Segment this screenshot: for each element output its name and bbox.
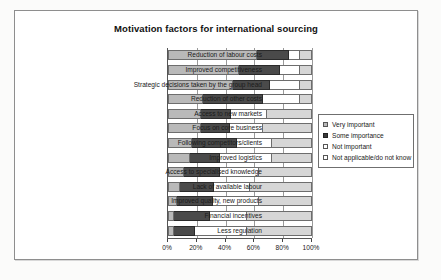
axis-tick [282, 239, 283, 242]
category-label: Access to specialised knowledge [166, 167, 265, 177]
axis-tick-label: 20% [183, 244, 209, 251]
category-label: Reduction of other costs [191, 94, 265, 104]
category-label: Less regulation [217, 226, 265, 236]
screenshot-root: Motivation factors for international sou… [0, 0, 441, 280]
axis-tick-label: 80% [269, 244, 295, 251]
axis-tick-label: 100% [298, 244, 324, 251]
bar-segment [300, 94, 312, 104]
category-label: Improved logistics [209, 153, 265, 163]
category-label: Financial incentives [204, 211, 265, 221]
legend-label-very-important: Very important [332, 121, 375, 128]
axis-tick-label: 0% [154, 244, 180, 251]
category-label: Focus on core business [192, 123, 265, 133]
bar-segment [168, 182, 180, 192]
axis-tick [225, 239, 226, 242]
gridline [312, 48, 313, 238]
axis-tick [167, 239, 168, 242]
legend-swatch-icon-not-applicable [323, 155, 328, 160]
bar-segment [300, 65, 312, 75]
axis-tick-label: 40% [212, 244, 238, 251]
bar-segment [272, 153, 312, 163]
category-label: Lack of available labour [193, 182, 265, 192]
legend-swatch-icon-not-important [323, 144, 328, 149]
category-label: Following competitors/clients [178, 138, 265, 148]
legend-item-very-important: Very important [323, 119, 410, 130]
legend-item-some-importance: Some importance [323, 130, 410, 141]
bar-segment [289, 50, 301, 60]
axis-tick [311, 239, 312, 242]
category-label: Improved quality, new products [171, 196, 265, 206]
bar-segment [263, 123, 312, 133]
bar-segment [300, 50, 312, 60]
category-label: Strategic decisions taken by the group h… [134, 80, 265, 90]
bar-segment [174, 226, 196, 236]
bar-segment [280, 65, 300, 75]
legend-item-not-applicable: Not applicable/do not know [323, 152, 410, 163]
bar-segment [259, 196, 312, 206]
bar-segment [168, 153, 190, 163]
chart-title: Motivation factors for international sou… [15, 23, 417, 34]
bar-segment [300, 80, 312, 90]
category-label: Access to new markets [194, 109, 265, 119]
axis-tick [253, 239, 254, 242]
category-label: Reduction of labour costs [188, 50, 265, 60]
axis-tick [196, 239, 197, 242]
legend-swatch-icon-some-importance [323, 133, 328, 138]
axis-tick-label: 60% [240, 244, 266, 251]
chart-legend: Very important Some importance Not impor… [318, 114, 414, 168]
bar-segment [272, 138, 312, 148]
bar-segment [263, 94, 300, 104]
legend-label-not-important: Not important [332, 143, 372, 150]
chart-frame: Motivation factors for international sou… [14, 10, 418, 260]
legend-item-not-important: Not important [323, 141, 410, 152]
legend-label-some-importance: Some importance [332, 132, 384, 139]
bar-segment [259, 167, 312, 177]
bar-segment [270, 80, 300, 90]
legend-label-not-applicable: Not applicable/do not know [332, 154, 411, 161]
legend-swatch-icon-very-important [323, 122, 328, 127]
category-label: Improved competitiveness [185, 65, 265, 75]
bar-segment [267, 109, 312, 119]
